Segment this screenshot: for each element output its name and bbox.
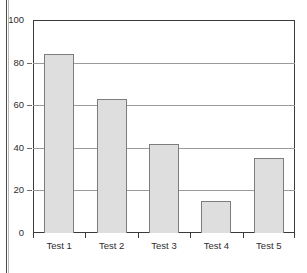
- x-tick-label-4: Test 4: [204, 240, 229, 252]
- y-tick-mark-20: [27, 190, 32, 191]
- x-tick-separator-4: [243, 233, 244, 238]
- x-tick-label-3: Test 3: [151, 240, 176, 252]
- bar-series: [33, 20, 295, 233]
- y-tick-label-100: 100: [8, 15, 24, 25]
- x-axis-ticks: [33, 233, 295, 238]
- y-tick-label-40: 40: [13, 143, 24, 153]
- y-tick-label-60: 60: [13, 100, 24, 110]
- bar-4: [201, 201, 231, 233]
- y-tick-mark-80: [27, 63, 32, 64]
- x-tick-edge-5: [294, 233, 295, 238]
- x-tick-separator-2: [138, 233, 139, 238]
- bar-1: [44, 54, 74, 233]
- x-tick-separator-1: [85, 233, 86, 238]
- y-tick-label-80: 80: [13, 58, 24, 68]
- x-tick-edge-0: [33, 233, 34, 238]
- x-tick-label-2: Test 2: [99, 240, 124, 252]
- y-tick-label-20: 20: [13, 185, 24, 195]
- chart-plot-area: [33, 20, 295, 233]
- x-tick-label-5: Test 5: [256, 240, 281, 252]
- x-tick-separator-3: [190, 233, 191, 238]
- y-tick-mark-40: [27, 148, 32, 149]
- bar-chart-figure: 020406080100 Test 1Test 2Test 3Test 4Tes…: [0, 0, 307, 273]
- bar-5: [254, 158, 284, 233]
- bar-2: [97, 99, 127, 233]
- y-tick-label-0: 0: [19, 228, 24, 238]
- y-axis-tick-labels: 020406080100: [0, 20, 29, 233]
- y-tick-mark-60: [27, 105, 32, 106]
- x-axis-tick-labels: Test 1Test 2Test 3Test 4Test 5: [33, 240, 295, 254]
- bar-3: [149, 144, 179, 233]
- x-tick-label-1: Test 1: [47, 240, 72, 252]
